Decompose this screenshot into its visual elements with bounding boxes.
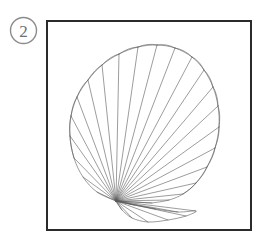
figure-root: 2 bbox=[0, 0, 266, 240]
figure-canvas: 2 bbox=[0, 0, 266, 240]
badge-number-label: 2 bbox=[19, 22, 28, 41]
figure-border bbox=[47, 21, 251, 230]
